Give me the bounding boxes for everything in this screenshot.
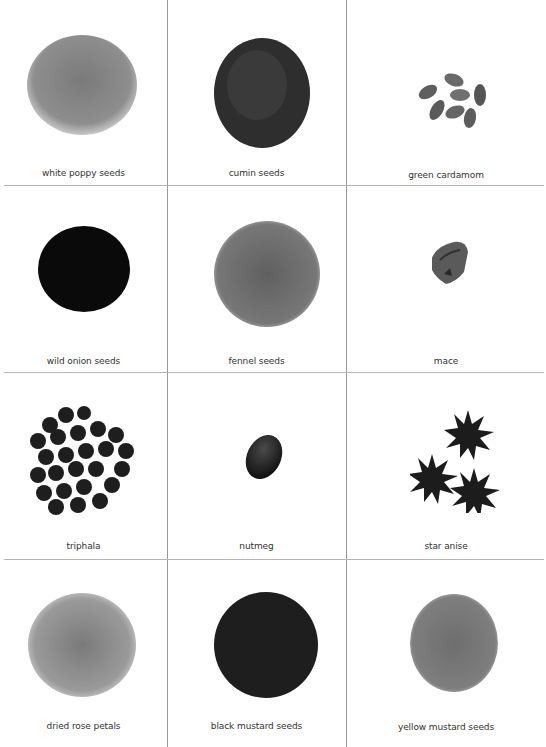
spice-cell-fennel-seeds: fennel seeds [167, 186, 346, 372]
mace-icon [426, 238, 471, 288]
star-anise-icon [410, 408, 500, 513]
spice-cell-dried-rose-petals: dried rose petals [0, 560, 167, 747]
spice-label: white poppy seeds [0, 168, 167, 178]
spice-label: wild onion seeds [0, 356, 167, 366]
nutmeg-icon [243, 431, 285, 483]
spice-label: green cardamom [346, 170, 546, 180]
spice-cell-wild-onion-seeds: wild onion seeds [0, 186, 167, 372]
black-mustard-seeds-icon [212, 590, 320, 700]
triphala-icon [26, 403, 138, 521]
spice-label: mace [346, 356, 546, 366]
spice-label: star anise [346, 541, 546, 551]
spice-label: yellow mustard seeds [346, 722, 546, 732]
spice-label: triphala [0, 541, 167, 551]
spice-label: cumin seeds [167, 168, 346, 178]
spice-cell-triphala: triphala [0, 373, 167, 559]
yellow-mustard-seeds-icon [408, 592, 500, 694]
white-poppy-seeds-icon [22, 30, 142, 140]
green-cardamom-icon [412, 70, 492, 130]
spice-cell-yellow-mustard-seeds: yellow mustard seeds [346, 560, 546, 747]
spice-cell-star-anise: star anise [346, 373, 546, 559]
spice-cell-black-mustard-seeds: black mustard seeds [167, 560, 346, 747]
spice-cell-cumin-seeds: cumin seeds [167, 0, 346, 185]
fennel-seeds-icon [212, 219, 322, 329]
spice-cell-mace: mace [346, 186, 546, 372]
spice-label: dried rose petals [0, 721, 167, 731]
dried-rose-petals-icon [26, 590, 138, 700]
spice-label: nutmeg [167, 541, 346, 551]
spice-cell-green-cardamom: green cardamom [346, 0, 546, 185]
spice-label: black mustard seeds [167, 721, 346, 731]
wild-onion-seeds-icon [36, 224, 131, 314]
spice-cell-white-poppy-seeds: white poppy seeds [0, 0, 167, 185]
spice-label: fennel seeds [167, 356, 346, 366]
spice-grid: white poppy seeds cumin seeds green card… [0, 0, 546, 747]
spice-cell-nutmeg: nutmeg [167, 373, 346, 559]
cumin-seeds-icon [212, 35, 312, 150]
